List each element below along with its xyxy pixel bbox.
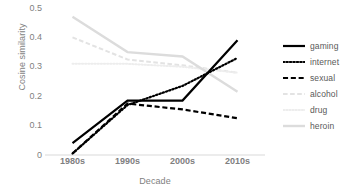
y-axis-tick-label: 0.2 bbox=[16, 92, 42, 101]
legend-swatch-icon bbox=[283, 73, 305, 83]
legend-item-drug[interactable]: drug bbox=[283, 102, 354, 118]
legend-swatch-icon bbox=[283, 89, 305, 99]
x-axis-tick-label: 2000s bbox=[155, 156, 211, 166]
legend-label: gaming bbox=[310, 41, 338, 51]
series-line-heroin bbox=[73, 17, 238, 92]
x-axis-title: Decade bbox=[45, 176, 265, 186]
series-lines bbox=[45, 8, 265, 155]
legend-swatch-icon bbox=[283, 41, 305, 51]
y-axis-tick-label: 0 bbox=[16, 151, 42, 160]
y-axis-tick-labels: 00.10.20.30.40.5 bbox=[12, 0, 42, 194]
x-axis-tick-label: 2010s bbox=[210, 156, 266, 166]
legend-item-alcohol[interactable]: alcohol bbox=[283, 86, 354, 102]
legend-item-heroin[interactable]: heroin bbox=[283, 118, 354, 134]
y-axis-tick-label: 0.4 bbox=[16, 33, 42, 42]
legend-label: internet bbox=[310, 57, 339, 67]
y-axis-tick-label: 0.5 bbox=[16, 4, 42, 13]
line-chart: Cosine similarity 00.10.20.30.40.5 1980s… bbox=[0, 0, 354, 194]
legend-swatch-icon bbox=[283, 105, 305, 115]
legend-item-gaming[interactable]: gaming bbox=[283, 38, 354, 54]
chart-legend: gaminginternetsexualalcoholdrugheroin bbox=[283, 38, 354, 134]
x-axis-tick-label: 1980s bbox=[45, 156, 101, 166]
series-line-sexual bbox=[73, 104, 238, 154]
legend-label: heroin bbox=[310, 121, 334, 131]
x-axis-tick-label: 1990s bbox=[100, 156, 156, 166]
legend-label: drug bbox=[310, 105, 327, 115]
x-axis-tick-labels: 1980s1990s2000s2010s bbox=[45, 156, 265, 172]
legend-item-internet[interactable]: internet bbox=[283, 54, 354, 70]
legend-label: alcohol bbox=[310, 89, 338, 99]
series-line-gaming bbox=[73, 40, 238, 143]
plot-area bbox=[45, 8, 265, 155]
legend-item-sexual[interactable]: sexual bbox=[283, 70, 354, 86]
legend-swatch-icon bbox=[283, 121, 305, 131]
legend-swatch-icon bbox=[283, 57, 305, 67]
y-axis-tick-label: 0.3 bbox=[16, 62, 42, 71]
legend-label: sexual bbox=[310, 73, 335, 83]
y-axis-tick-label: 0.1 bbox=[16, 121, 42, 130]
